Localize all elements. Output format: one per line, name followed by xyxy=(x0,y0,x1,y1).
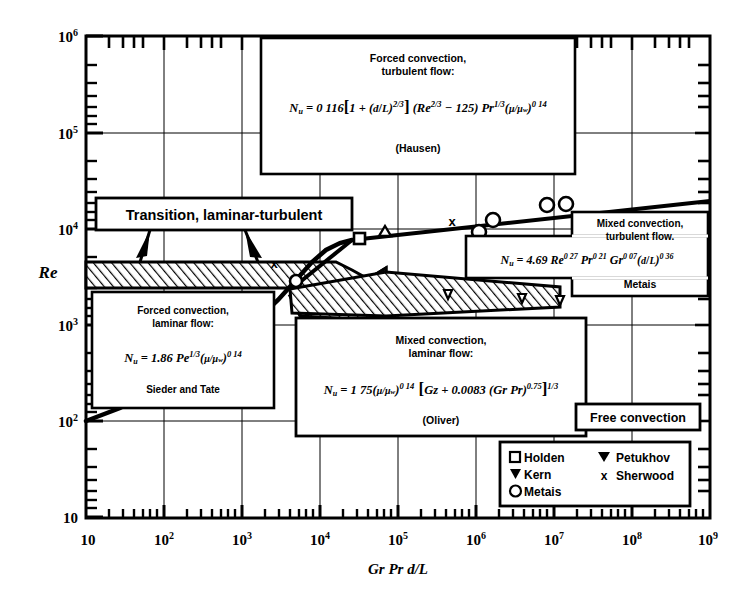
mixed-turbulent-author: Metais xyxy=(624,278,657,290)
forced-laminar-title-2: laminar flow: xyxy=(152,318,214,329)
forced-laminar-title-1: Forced convection, xyxy=(137,305,229,316)
mixed-turbulent-title-2: turbulent flow. xyxy=(606,231,675,242)
x-tick-exp-5: 5 xyxy=(403,530,408,541)
legend: Holden Kern Metais Petukhov x Sherwood xyxy=(500,442,690,506)
data-point-sherwood-1: x xyxy=(270,256,278,271)
legend-marker-square-icon xyxy=(510,452,520,462)
x-tick-exp-6: 6 xyxy=(481,530,486,541)
free-convection-label: Free convection xyxy=(590,411,686,425)
chart-svg: x x Forced convection, turbulent flow: N… xyxy=(0,0,739,591)
legend-label-kern: Kern xyxy=(524,468,551,482)
x-tick-label-1: 10 xyxy=(81,532,96,548)
forced-laminar-author: Sieder and Tate xyxy=(146,384,220,395)
y-axis-label: Re xyxy=(38,263,58,282)
y-tick-exp-3: 3 xyxy=(73,316,78,327)
y-tick-label-1: 10 xyxy=(63,510,78,526)
annotation-free-convection: Free convection xyxy=(576,404,700,430)
legend-marker-circle-icon xyxy=(510,486,521,497)
y-tick-exp-6: 6 xyxy=(73,27,78,38)
flow-regime-chart: x x Forced convection, turbulent flow: N… xyxy=(0,0,739,591)
forced-laminar-equation: Nu = 1.86 Pe1/3(μ/μw)0 14 xyxy=(123,349,242,366)
mixed-laminar-title-2: laminar flow: xyxy=(409,347,474,359)
x-tick-exp-8: 8 xyxy=(637,530,642,541)
x-tick-exp-3: 3 xyxy=(247,530,252,541)
forced-turbulent-title-2: turbulent flow: xyxy=(382,65,455,77)
y-tick-exp-4: 4 xyxy=(73,220,78,231)
annotation-forced-laminar: Forced convection, laminar flow: Nu = 1.… xyxy=(92,292,274,408)
x-axis-label: Gr Pr d/L xyxy=(368,561,428,577)
transition-label: Transition, laminar-turbulent xyxy=(126,207,323,223)
x-tick-exp-4: 4 xyxy=(325,530,330,541)
data-point-metais-2 xyxy=(486,213,500,227)
legend-label-sherwood: Sherwood xyxy=(616,469,674,483)
x-tick-exp-9: 9 xyxy=(713,530,718,541)
forced-turbulent-author: (Hausen) xyxy=(396,142,441,154)
mixed-laminar-author: (Oliver) xyxy=(423,414,460,426)
x-tick-exp-7: 7 xyxy=(559,530,564,541)
legend-label-holden: Holden xyxy=(524,451,565,465)
annotation-mixed-laminar: Mixed convection, laminar flow: Nu = 1 7… xyxy=(296,318,586,436)
forced-turbulent-title-1: Forced convection, xyxy=(370,52,466,64)
legend-marker-cross-icon: x xyxy=(601,469,608,483)
data-point-metais-4 xyxy=(559,197,573,211)
data-point-holden-2 xyxy=(354,233,365,244)
y-tick-exp-5: 5 xyxy=(73,124,78,135)
mixed-laminar-title-1: Mixed convection, xyxy=(395,334,486,346)
mixed-turbulent-title-1: Mixed convection, xyxy=(597,218,684,229)
data-point-sherwood-2: x xyxy=(448,214,456,229)
mixed-turbulent-equation: Nu = 4.69 Re0 27 Pr0 21 Gr0 07(d/L)0 36 xyxy=(499,252,673,268)
data-point-metais-3 xyxy=(540,198,554,212)
data-point-metais-1 xyxy=(290,275,302,287)
y-tick-exp-2: 2 xyxy=(73,412,78,423)
x-tick-exp-2: 2 xyxy=(169,530,174,541)
annotation-forced-turbulent: Forced convection, turbulent flow: Nu = … xyxy=(261,38,575,174)
legend-label-petukhov: Petukhov xyxy=(616,451,670,465)
legend-label-metais: Metais xyxy=(524,485,562,499)
